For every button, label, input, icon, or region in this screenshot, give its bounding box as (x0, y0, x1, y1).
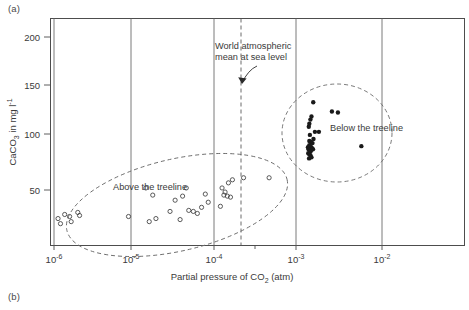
xtick-exponent-3: -3 (298, 253, 304, 260)
data-point (69, 220, 73, 224)
data-point (359, 144, 363, 148)
data-point (187, 208, 191, 212)
svg-text:10-3: 10-3 (288, 253, 305, 265)
y-axis-ticks (44, 37, 51, 190)
svg-text:10-2: 10-2 (374, 253, 391, 265)
data-point (203, 192, 207, 196)
x-axis-title: Partial pressure of CO2 (atm) (171, 271, 294, 284)
x-axis-title-post: (atm) (269, 271, 294, 282)
data-point (317, 130, 321, 134)
below-treeline-label: Below the treeline (330, 123, 403, 133)
data-point (313, 130, 317, 134)
data-point (154, 216, 158, 220)
data-point (178, 217, 182, 221)
data-point (309, 155, 313, 159)
data-point (206, 200, 210, 204)
data-point (58, 222, 62, 226)
world-mean-line2: mean at sea level (215, 52, 287, 62)
data-point (241, 176, 245, 180)
svg-text:10-5: 10-5 (123, 253, 140, 265)
data-point (308, 133, 312, 137)
xtick-mantissa-3: 10 (288, 254, 299, 265)
world-mean-annotation: World atmospheric mean at sea level (215, 41, 292, 84)
below-treeline-envelope (282, 84, 392, 182)
xtick-mantissa-1: 10 (123, 254, 134, 265)
data-point (311, 137, 315, 141)
data-point (63, 212, 67, 216)
data-point (168, 209, 172, 213)
data-point (199, 205, 203, 209)
xtick-mantissa-0: 10 (46, 254, 57, 265)
x-axis-ticks (54, 246, 382, 251)
data-point (330, 109, 334, 113)
xtick-label-1e-2: 10-2 (374, 253, 391, 265)
xtick-label-1e-5: 10-5 (123, 253, 140, 265)
xtick-mantissa-2: 10 (206, 254, 217, 265)
xtick-mantissa-4: 10 (374, 254, 385, 265)
data-point (173, 198, 177, 202)
above-treeline-label: Above the treeline (113, 182, 187, 192)
ytick-label-200: 200 (24, 32, 40, 43)
xtick-label-1e-6: 10-6 (46, 253, 63, 265)
ytick-label-150: 150 (24, 80, 40, 91)
xtick-label-1e-3: 10-3 (288, 253, 305, 265)
xtick-exponent-2: -4 (216, 253, 222, 260)
svg-text:10-6: 10-6 (46, 253, 63, 265)
y-axis-title: CaCO3 in mg l-1 (6, 98, 20, 165)
data-point (180, 194, 184, 198)
data-point (126, 214, 130, 218)
xtick-exponent-0: -6 (56, 253, 62, 260)
data-point (308, 117, 312, 121)
data-point (191, 209, 195, 213)
data-point (267, 176, 271, 180)
y-axis-title-pre: CaCO (7, 139, 18, 165)
data-point (311, 147, 315, 151)
data-point (230, 178, 234, 182)
data-point (195, 211, 199, 215)
data-point (336, 110, 340, 114)
x-axis-title-pre: Partial pressure of CO (171, 271, 265, 282)
y-axis-title-sup: -1 (6, 98, 13, 104)
y-axis-tick-labels: 200 150 100 50 (24, 32, 40, 196)
data-point (307, 125, 311, 129)
world-mean-line1: World atmospheric (215, 41, 292, 51)
scatter-plot: 200 150 100 50 10-6 10-5 (0, 0, 469, 310)
ytick-label-100: 100 (24, 129, 40, 140)
y-axis-title-mid: in mg l (7, 105, 18, 136)
data-point (147, 220, 151, 224)
svg-text:10-4: 10-4 (206, 253, 223, 265)
ytick-label-50: 50 (29, 185, 40, 196)
data-point (218, 204, 222, 208)
data-point (220, 186, 224, 190)
world-mean-arrow-head (238, 77, 246, 84)
xtick-label-1e-4: 10-4 (206, 253, 223, 265)
x-axis-tick-labels: 10-6 10-5 10-4 10-3 10-2 (46, 253, 391, 265)
data-point (226, 181, 230, 185)
data-point (311, 100, 315, 104)
data-point (151, 193, 155, 197)
figure-panel-a: (a) (b) 200 150 100 50 (0, 0, 469, 310)
data-point (56, 216, 60, 220)
above-treeline-envelope (57, 135, 298, 275)
xtick-exponent-4: -2 (384, 253, 390, 260)
